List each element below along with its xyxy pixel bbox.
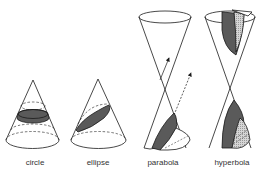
- label-hyperbola: hyperbola: [202, 158, 261, 168]
- label-ellipse: ellipse: [68, 158, 128, 168]
- circle-section-shading: [17, 110, 49, 124]
- conic-sections-diagram: [0, 0, 261, 175]
- parabola-cone: [139, 11, 191, 150]
- label-parabola: parabola: [133, 158, 193, 168]
- label-circle: circle: [5, 158, 65, 168]
- ellipse-cone: [71, 79, 126, 149]
- hyperbola-cone: [205, 10, 255, 148]
- circle-cone: [6, 80, 59, 149]
